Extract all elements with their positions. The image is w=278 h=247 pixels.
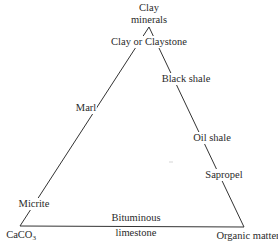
- vertex-label-clay-minerals-line2: minerals: [130, 14, 168, 26]
- edge-label-oil-shale: Oil shale: [192, 132, 232, 144]
- right-edge: [149, 27, 244, 227]
- edge-label-clay-or-claystone: Clay or Claystone: [110, 36, 188, 48]
- vertex-label-clay-minerals-line1: Clay: [138, 2, 160, 14]
- edge-label-bituminous: Bituminous: [110, 212, 161, 224]
- edge-label-micrite: Micrite: [18, 198, 51, 210]
- vertex-label-caco3: CaCO3: [5, 229, 37, 244]
- vertex-label-organic-matter: Organic matter: [215, 230, 278, 242]
- left-edge: [20, 27, 149, 226]
- edge-label-marl: Marl: [75, 102, 97, 114]
- vertex-label-caco3-subscript: 3: [32, 234, 36, 242]
- vertex-label-caco3-text: CaCO: [6, 229, 32, 240]
- edge-label-sapropel: Sapropel: [204, 169, 243, 181]
- edge-label-black-shale: Black shale: [161, 73, 212, 85]
- edge-label-limestone: limestone: [115, 227, 158, 239]
- ternary-diagram: Clay minerals Clay or Claystone Marl Mic…: [0, 0, 278, 247]
